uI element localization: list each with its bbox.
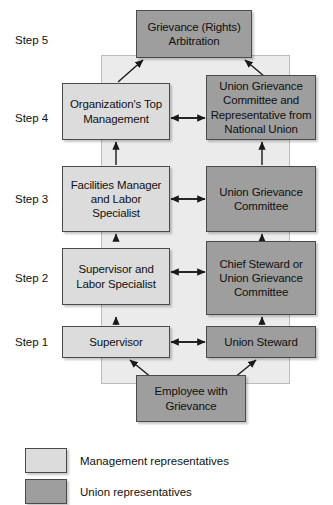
node-supervisor-label: Supervisor <box>66 335 166 349</box>
node-union-committee-national-rep-label: Union Grievance Committee and Representa… <box>210 79 312 135</box>
node-facilities-manager-label: Facilities Manager and Labor Specialist <box>66 178 166 220</box>
legend-swatch-union <box>25 479 67 504</box>
node-chief-steward[interactable]: Chief Steward or Union Grievance Committ… <box>206 241 316 315</box>
node-supervisor-labor-specialist-label: Supervisor and Labor Specialist <box>66 262 166 290</box>
node-supervisor-labor-specialist[interactable]: Supervisor and Labor Specialist <box>62 248 170 305</box>
node-top-management[interactable]: Organization's Top Management <box>62 83 170 140</box>
node-top-management-label: Organization's Top Management <box>66 97 166 125</box>
node-supervisor[interactable]: Supervisor <box>62 326 170 358</box>
step-label-4: Step 4 <box>15 112 48 124</box>
step-label-3: Step 3 <box>15 193 48 205</box>
step-label-5: Step 5 <box>15 34 48 46</box>
node-union-steward[interactable]: Union Steward <box>206 326 316 358</box>
node-union-grievance-committee[interactable]: Union Grievance Committee <box>206 166 316 232</box>
node-union-grievance-committee-label: Union Grievance Committee <box>210 185 312 213</box>
grievance-procedure-diagram: Step 5 Step 4 Step 3 Step 2 Step 1 Griev… <box>0 0 333 505</box>
node-arbitration-label: Grievance (Rights) Arbitration <box>140 20 248 48</box>
node-union-steward-label: Union Steward <box>210 335 312 349</box>
node-chief-steward-label: Chief Steward or Union Grievance Committ… <box>210 257 312 299</box>
legend-label-management: Management representatives <box>80 455 229 467</box>
node-facilities-manager[interactable]: Facilities Manager and Labor Specialist <box>62 166 170 232</box>
legend-swatch-management <box>25 448 67 473</box>
arrow-top-management-to-arbitration <box>118 60 143 82</box>
node-union-committee-national-rep[interactable]: Union Grievance Committee and Representa… <box>206 75 316 140</box>
step-label-1: Step 1 <box>15 336 48 348</box>
step-label-2: Step 2 <box>15 272 48 284</box>
node-employee-with-grievance[interactable]: Employee with Grievance <box>136 375 246 422</box>
node-employee-with-grievance-label: Employee with Grievance <box>140 384 242 412</box>
legend-label-union: Union representatives <box>80 486 192 498</box>
node-arbitration[interactable]: Grievance (Rights) Arbitration <box>136 10 252 58</box>
